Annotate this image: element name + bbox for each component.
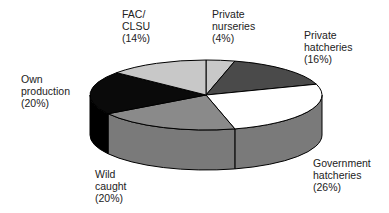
- label-line: (14%): [122, 32, 150, 44]
- label-line: (20%): [21, 97, 70, 109]
- label-line: (16%): [304, 53, 352, 65]
- label-line: Private: [304, 29, 352, 41]
- label-private-nurseries: Private nurseries (4%): [212, 8, 255, 44]
- label-wild-caught: Wild caught (20%): [95, 168, 127, 204]
- label-own-production: Own production (20%): [21, 73, 70, 109]
- label-line: Wild: [95, 168, 127, 180]
- label-line: (20%): [95, 192, 127, 204]
- label-line: (26%): [313, 181, 371, 193]
- label-line: Own: [21, 73, 70, 85]
- label-line: production: [21, 85, 70, 97]
- label-fac-clsu: FAC/ CLSU (14%): [122, 8, 150, 44]
- label-line: hatcheries: [304, 41, 352, 53]
- label-line: caught: [95, 180, 127, 192]
- label-private-hatcheries: Private hatcheries (16%): [304, 29, 352, 65]
- label-government-hatcheries: Government hatcheries (26%): [313, 157, 371, 193]
- label-line: hatcheries: [313, 169, 371, 181]
- label-line: nurseries: [212, 20, 255, 32]
- label-line: Private: [212, 8, 255, 20]
- label-line: CLSU: [122, 20, 150, 32]
- label-line: FAC/: [122, 8, 150, 20]
- label-line: (4%): [212, 32, 255, 44]
- label-line: Government: [313, 157, 371, 169]
